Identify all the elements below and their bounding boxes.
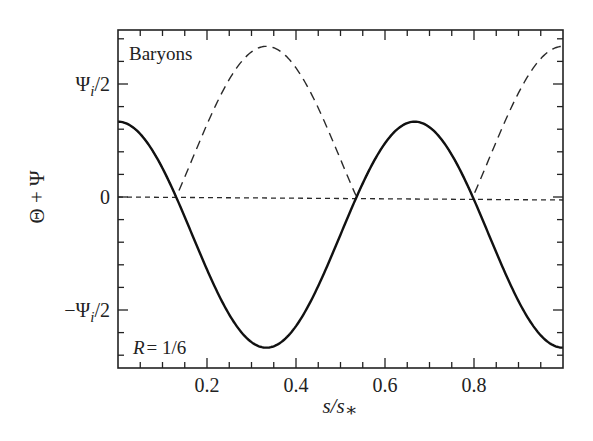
theta-plus-psi-curve (118, 122, 563, 348)
y-axis-label: Θ + Ψ (25, 170, 49, 224)
x-tick-label: 0.6 (373, 374, 398, 396)
x-tick-label: 0.8 (462, 374, 487, 396)
x-tick-label: 0.4 (284, 374, 309, 396)
x-axis-label: s/s∗ (322, 394, 357, 420)
y-tick-label: −Ψi/2 (64, 299, 110, 325)
x-tick-label: 0.2 (195, 374, 220, 396)
chart: 0.20.40.60.8 Ψi/20−Ψi/2 Baryons R= 1/6 s… (0, 0, 593, 441)
y-tick-labels: Ψi/20−Ψi/2 (64, 73, 110, 325)
plot-curves (118, 46, 563, 347)
x-tick-labels: 0.20.40.60.8 (195, 374, 487, 396)
parameter-annotation: R= 1/6 (132, 337, 186, 358)
panel-label: Baryons (129, 43, 192, 64)
y-tick-label: 0 (100, 186, 110, 208)
r-value: = 1/6 (147, 337, 187, 358)
y-tick-label: Ψi/2 (76, 73, 111, 99)
r-symbol: R (132, 337, 145, 358)
zero-reference-line (118, 197, 563, 200)
abs-theta-plus-psi-curve (118, 46, 563, 196)
